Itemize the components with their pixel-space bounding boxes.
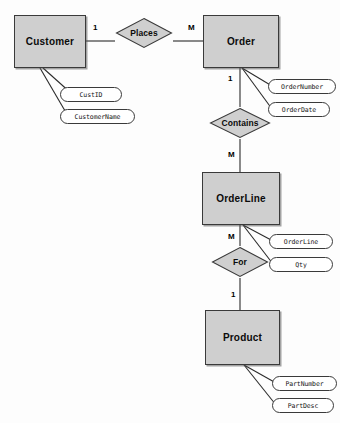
attribute-ordernumber[interactable]: OrderNumber [268, 79, 336, 94]
entity-product-label: Product [223, 332, 262, 343]
relationship-contains[interactable]: Contains [209, 107, 271, 139]
er-diagram-canvas: Customer Order OrderLine Product Places … [0, 0, 340, 423]
cardinality-contains-orderline: M [228, 150, 235, 159]
attribute-customername[interactable]: CustomerName [60, 109, 135, 124]
attribute-orderdate-label: OrderDate [282, 106, 316, 114]
attribute-partdesc[interactable]: PartDesc [272, 398, 334, 413]
attribute-orderline-label: OrderLine [284, 238, 318, 246]
entity-customer-label: Customer [26, 36, 74, 47]
relationship-places-label: Places [130, 28, 158, 38]
relationship-contains-label: Contains [221, 118, 258, 128]
cardinality-places-order: M [188, 23, 195, 32]
entity-product[interactable]: Product [205, 310, 280, 365]
attribute-orderline[interactable]: OrderLine [269, 234, 333, 249]
attribute-ordernumber-label: OrderNumber [281, 83, 323, 91]
cardinality-customer-places: 1 [93, 23, 97, 32]
cardinality-orderline-for: M [228, 232, 235, 241]
attribute-partdesc-label: PartDesc [288, 402, 319, 410]
cardinality-for-product: 1 [231, 290, 235, 299]
attribute-customername-label: CustomerName [75, 113, 121, 121]
entity-customer[interactable]: Customer [14, 15, 86, 68]
entity-order-label: Order [227, 36, 255, 47]
attribute-custid[interactable]: CustID [60, 87, 122, 102]
attribute-partnumber-label: PartNumber [285, 380, 323, 388]
attribute-orderdate[interactable]: OrderDate [268, 102, 330, 117]
relationship-for[interactable]: For [211, 246, 269, 278]
leader-product-partnumber [244, 365, 276, 383]
attribute-qty[interactable]: Qty [269, 257, 333, 272]
entity-orderline-label: OrderLine [216, 193, 266, 204]
entity-orderline[interactable]: OrderLine [202, 172, 280, 225]
cardinality-order-contains: 1 [228, 74, 232, 83]
attribute-partnumber[interactable]: PartNumber [272, 376, 337, 391]
entity-order[interactable]: Order [203, 15, 279, 68]
relationship-for-label: For [233, 257, 247, 267]
relationship-places[interactable]: Places [115, 17, 173, 49]
attribute-custid-label: CustID [80, 91, 103, 99]
attribute-qty-label: Qty [295, 261, 306, 269]
